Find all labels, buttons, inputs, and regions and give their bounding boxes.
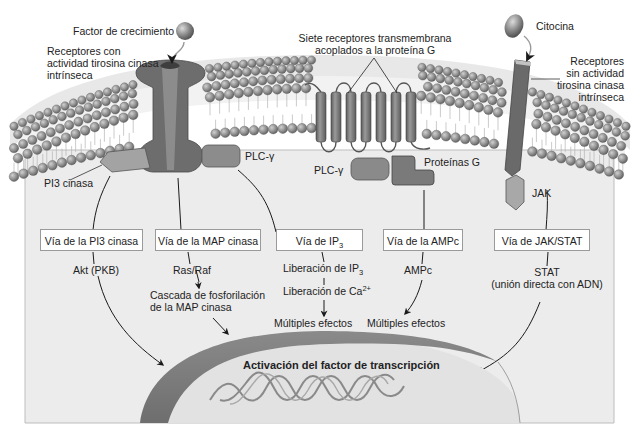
cytokine-ball — [501, 12, 526, 41]
g-proteins-label: Proteínas G — [424, 156, 480, 168]
pathway-box-pi3k: Vía de la PI3 cinasa — [40, 229, 143, 251]
pathway-box-camp: Vía de la AMPc — [383, 229, 463, 251]
ca-release-label: Liberación de Ca2+ — [283, 285, 371, 297]
growth-factor-ball — [176, 22, 194, 40]
non-rtk-label-line-1: Receptores — [540, 55, 624, 67]
ras-raf-label: Ras/Raf — [173, 264, 211, 276]
pathway-box-map-kinase: Vía de la MAP cinasa — [155, 229, 261, 251]
growth-factor-label: Factor de crecimiento — [60, 25, 174, 37]
gpcr-label-line-1: Siete receptores transmembrana — [285, 32, 465, 44]
camp-outcome-label: Múltiples efectos — [367, 317, 445, 329]
rtk-label-line-2: actividad tirosina cinasa — [47, 57, 158, 69]
rtk-label-line-1: Receptores con — [47, 45, 121, 57]
pathway-box-ip3: Vía de IP3 — [276, 229, 363, 251]
nucleus-title: Activación del factor de transcripción — [243, 359, 440, 371]
plc-gamma-rtk-label: PLC-γ — [245, 150, 274, 162]
akt-label: Akt (PKB) — [73, 264, 119, 276]
jak-label: JAK — [532, 187, 551, 199]
plc-gamma-rtk — [202, 145, 240, 167]
ip3-outcome-label: Múltiples efectos — [274, 317, 352, 329]
cytokine-label: Citocina — [536, 20, 574, 32]
gpcr-label-line-2: acoplados a la proteína G — [285, 44, 465, 56]
non-rtk-label-line-3: tirosina cinasa — [540, 79, 624, 91]
non-rtk-label-line-2: sin actividad — [540, 67, 624, 79]
stat-label: STAT — [487, 266, 607, 278]
stat-dna-binding-label: (unión directa con ADN) — [477, 278, 617, 290]
camp-label: AMPc — [404, 264, 432, 276]
map-cascade-line-1: Cascada de fosforilación — [150, 289, 265, 301]
ip3-release-label: Liberación de IP3 — [283, 262, 363, 274]
pi3k-label: PI3 cinasa — [44, 177, 93, 189]
plc-gamma-gpcr — [351, 158, 389, 180]
plc-gamma-gpcr-label: PLC-γ — [314, 164, 343, 176]
pathway-box-jak-stat: Vía de JAK/STAT — [494, 229, 590, 251]
non-rtk-label-line-4: intrínseca — [540, 91, 624, 103]
signaling-pathways-diagram: Factor de crecimiento Receptores con act… — [0, 0, 639, 440]
map-cascade-line-2: de la MAP cinasa — [150, 301, 232, 313]
rtk-label-line-3: intrínseca — [47, 69, 93, 81]
gpcr-helices — [316, 92, 416, 142]
